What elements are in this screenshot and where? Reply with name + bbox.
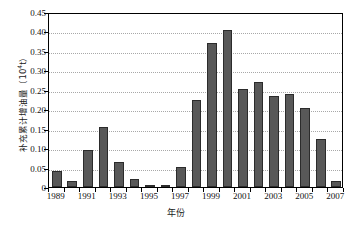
x-tick-label: 1989 bbox=[47, 191, 65, 201]
y-tick-mark bbox=[44, 71, 48, 72]
x-tick-label: 2007 bbox=[326, 191, 344, 201]
bar bbox=[269, 96, 279, 187]
y-tick-mark bbox=[44, 169, 48, 170]
bar bbox=[300, 108, 310, 187]
bar bbox=[145, 185, 155, 187]
y-axis-tick-labels: 00.050.100.150.200.250.300.350.400.45 bbox=[18, 13, 46, 188]
y-tick-mark bbox=[44, 52, 48, 53]
x-tick-label: 2005 bbox=[295, 191, 313, 201]
x-axis-title: 年份 bbox=[0, 206, 352, 219]
bar bbox=[83, 150, 93, 187]
bar bbox=[192, 100, 202, 187]
bar bbox=[285, 94, 295, 187]
x-axis-tick-labels: 1989199119931995199719992001200320052007 bbox=[48, 191, 343, 205]
x-tick-label: 1997 bbox=[171, 191, 189, 201]
y-tick-mark bbox=[44, 13, 48, 14]
y-tick-mark bbox=[44, 110, 48, 111]
bar bbox=[67, 181, 77, 187]
y-tick-mark bbox=[44, 149, 48, 150]
bar bbox=[207, 43, 217, 187]
bar bbox=[99, 127, 109, 187]
bar bbox=[130, 179, 140, 187]
y-tick-mark bbox=[44, 32, 48, 33]
bar bbox=[161, 185, 171, 187]
x-tick-label: 2001 bbox=[233, 191, 251, 201]
bar bbox=[254, 82, 264, 187]
bar bbox=[316, 139, 326, 187]
bar bbox=[176, 167, 186, 187]
bar bbox=[114, 162, 124, 187]
y-tick-mark bbox=[44, 91, 48, 92]
bar-series bbox=[49, 14, 342, 187]
x-tick-label: 1995 bbox=[140, 191, 158, 201]
plot-area bbox=[48, 13, 343, 188]
chart-figure: 补充累计增油量（104t） 00.050.100.150.200.250.300… bbox=[0, 0, 352, 233]
bar bbox=[52, 171, 62, 187]
x-tick-label: 1999 bbox=[202, 191, 220, 201]
bar bbox=[223, 30, 233, 188]
bar bbox=[238, 89, 248, 187]
x-tick-label: 1991 bbox=[78, 191, 96, 201]
x-tick-label: 1993 bbox=[109, 191, 127, 201]
x-tick-label: 2003 bbox=[264, 191, 282, 201]
y-tick-mark bbox=[44, 130, 48, 131]
bar bbox=[331, 181, 341, 187]
